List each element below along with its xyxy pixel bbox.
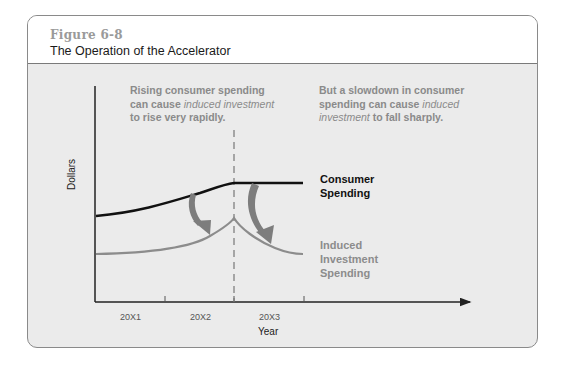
rising-annotation: Rising consumer spending can cause induc… <box>130 84 274 125</box>
consumer-spending-label: Consumer Spending <box>320 172 374 200</box>
x-tick-20x2: 20X2 <box>190 312 211 322</box>
x-tick-20x1: 20X1 <box>120 312 141 322</box>
accelerator-chart <box>0 0 564 369</box>
induced-investment-label: Induced Investment Spending <box>320 238 378 280</box>
x-axis-label: Year <box>258 326 278 337</box>
x-tick-20x3: 20X3 <box>259 312 280 322</box>
rise-arrow <box>189 193 211 235</box>
slowdown-annotation: But a slowdown in consumer spending can … <box>319 84 464 125</box>
y-axis-label: Dollars <box>66 159 77 190</box>
consumer-spending-line <box>96 183 303 216</box>
